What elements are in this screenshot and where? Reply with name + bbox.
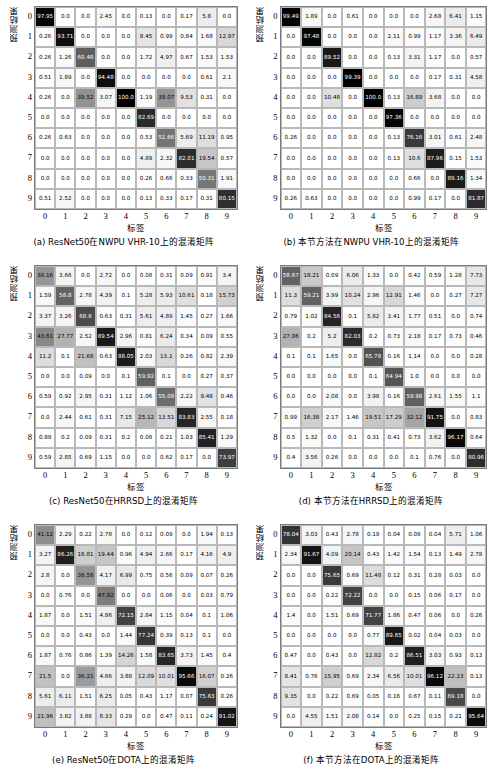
cell-r6-c9: 2.48 — [466, 128, 487, 148]
cell-r8-c0: 0.0 — [35, 169, 55, 189]
cell-r0-c3: 6.06 — [342, 266, 363, 286]
cell-r1-c3: 10.24 — [342, 286, 363, 306]
cell-r0-c1: 18.21 — [301, 266, 322, 286]
cell-r5-c5: 97.36 — [384, 108, 405, 128]
cell-r8-c9: 1.34 — [466, 169, 487, 189]
cell-r5-c7: 0.0 — [176, 108, 196, 128]
cell-r3-c9: 0.46 — [466, 327, 487, 347]
cell-r4-c8: 0.31 — [197, 88, 217, 108]
cell-r6-c0: 0.47 — [281, 646, 302, 666]
cell-r0-c1: 3.03 — [301, 525, 322, 545]
y-tick-2: 2 — [21, 46, 34, 66]
x-tick-5: 5 — [136, 728, 156, 739]
cell-r3-c6: 0.15 — [404, 586, 425, 606]
x-tick-9: 9 — [217, 469, 237, 480]
cell-r8-c3: 0.0 — [96, 169, 116, 189]
y-axis-label: 预测结果 — [255, 265, 267, 301]
cell-r1-c2: 3.99 — [322, 286, 343, 306]
cell-r8-c1: 0.2 — [55, 428, 75, 448]
cell-r6-c4: 0.0 — [363, 128, 384, 148]
cell-r9-c4: 0.0 — [116, 448, 136, 468]
cell-r6-c3: 0.0 — [342, 646, 363, 666]
cell-r6-c7: 3.01 — [425, 128, 446, 148]
cell-r2-c7: 0.67 — [176, 47, 196, 67]
cell-r8-c3: 0.0 — [342, 169, 363, 189]
cell-r6-c9: 1.1 — [466, 387, 487, 407]
cell-r3-c4: 0.0 — [363, 68, 384, 88]
matrix-area: 预测结果012345678938.163.660.02.720.00.080.3… — [9, 265, 238, 469]
cell-r0-c2: 0.43 — [322, 525, 343, 545]
cell-r9-c2: 0.69 — [75, 448, 95, 468]
cell-r3-c9: 0.79 — [217, 586, 237, 606]
cell-r9-c7: 0.76 — [425, 448, 446, 468]
cell-r0-c6: 0.0 — [156, 7, 176, 27]
cell-r1-c2: 0.0 — [322, 27, 343, 47]
cell-r6-c8: 11.19 — [197, 128, 217, 148]
cell-r7-c1: 0.0 — [301, 148, 322, 168]
cell-r9-c9: 80.15 — [217, 189, 237, 209]
cell-r0-c4: 0.19 — [363, 525, 384, 545]
cell-r4-c4: 71.77 — [363, 606, 384, 626]
x-tick-9: 9 — [217, 728, 237, 739]
cell-r1-c7: 10.61 — [176, 286, 196, 306]
cell-r9-c8: 0.31 — [197, 189, 217, 209]
cell-r9-c3: 0.0 — [342, 448, 363, 468]
cell-r4-c0: 0.26 — [35, 88, 55, 108]
cell-r3-c2: 2.52 — [75, 327, 95, 347]
cell-r8-c5: 0.26 — [136, 169, 156, 189]
cell-r7-c8: 19.54 — [197, 148, 217, 168]
y-tick-4: 4 — [267, 87, 280, 107]
cell-r4-c2: 39.52 — [75, 88, 95, 108]
cell-r1-c4: 0.0 — [363, 27, 384, 47]
cell-r6-c0: 0.0 — [281, 387, 302, 407]
cell-r7-c2: 0.0 — [75, 148, 95, 168]
cell-r6-c2: 0.0 — [75, 128, 95, 148]
panel-d: 预测结果012345678958.6718.210.096.061.330.00… — [247, 259, 495, 518]
cell-r9-c0: 0.59 — [35, 448, 55, 468]
x-tick-3: 3 — [96, 210, 116, 221]
cell-r8-c5: 0.41 — [384, 428, 405, 448]
cell-r7-c7: 87.96 — [425, 148, 446, 168]
cell-r2-c2: 84.56 — [322, 306, 343, 326]
x-tick-labels: 0123456789 — [35, 728, 237, 739]
y-tick-4: 4 — [267, 605, 280, 625]
cell-r4-c3: 4.86 — [96, 606, 116, 626]
y-tick-labels: 0123456789 — [21, 6, 34, 208]
y-tick-5: 5 — [21, 107, 34, 127]
cell-r0-c8: 1.28 — [445, 266, 466, 286]
cell-r6-c7: 5.69 — [176, 128, 196, 148]
cell-r3-c1: 27.77 — [55, 327, 75, 347]
cell-r6-c6: 55.09 — [156, 387, 176, 407]
cell-r0-c0: 38.16 — [35, 266, 55, 286]
cell-r1-c4: 0.43 — [363, 545, 384, 565]
cell-r2-c4: 0.31 — [116, 306, 136, 326]
y-axis-label: 预测结果 — [255, 6, 267, 42]
cell-r5-c5: 77.24 — [136, 626, 156, 646]
cell-r8-c1: 0.0 — [55, 169, 75, 189]
matrix-area: 预测结果012345678958.6718.210.096.061.330.00… — [255, 265, 488, 469]
cell-r9-c2: 0.0 — [322, 189, 343, 209]
x-tick-5: 5 — [384, 210, 405, 221]
cell-r8-c2: 0.09 — [75, 428, 95, 448]
cell-r2-c5: 0.12 — [384, 565, 405, 585]
cell-r8-c7: 0.33 — [176, 169, 196, 189]
cell-r5-c9: 0.0 — [466, 108, 487, 128]
cell-r5-c0: 0.0 — [35, 367, 55, 387]
cell-r6-c9: 0.13 — [466, 646, 487, 666]
y-tick-2: 2 — [267, 46, 280, 66]
cell-r0-c3: 2.45 — [96, 7, 116, 27]
cell-r0-c2: 0.0 — [322, 7, 343, 27]
cell-r8-c2: 0.22 — [322, 687, 343, 707]
cell-r2-c2: 75.65 — [322, 565, 343, 585]
y-tick-5: 5 — [267, 366, 280, 386]
x-tick-2: 2 — [322, 210, 343, 221]
cell-r2-c8: 0.27 — [197, 306, 217, 326]
cell-r0-c0: 99.49 — [281, 7, 302, 27]
cell-r0-c6: 0.42 — [404, 266, 425, 286]
cell-r1-c3: 19.44 — [96, 545, 116, 565]
cell-r7-c3: 4.86 — [96, 666, 116, 686]
cell-r2-c3: 0.0 — [96, 47, 116, 67]
cell-r4-c0: 1.87 — [35, 606, 55, 626]
cell-r0-c1: 3.66 — [55, 266, 75, 286]
cell-r3-c9: 0.55 — [217, 327, 237, 347]
